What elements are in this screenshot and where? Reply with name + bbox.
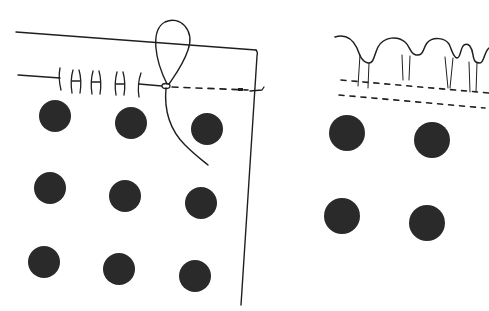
edge-tick	[250, 87, 264, 91]
stitch-end-mark	[238, 88, 243, 91]
sewing-diagram	[0, 0, 489, 311]
thread-left	[18, 75, 60, 78]
dashed-stitch-line-upper	[341, 80, 489, 93]
dashed-stitch-line-lower	[339, 95, 485, 108]
running-stitches	[59, 68, 162, 97]
fabric-right-edge	[241, 50, 257, 305]
fabric-top-edge	[16, 32, 256, 50]
dashed-stitch-guide	[172, 87, 248, 90]
right-panel	[324, 36, 489, 241]
fabric-dots-left	[28, 100, 223, 292]
gathered-edge	[335, 36, 489, 63]
left-panel	[16, 20, 264, 305]
fabric-dots-right	[324, 115, 450, 241]
thread-loop	[156, 20, 190, 84]
